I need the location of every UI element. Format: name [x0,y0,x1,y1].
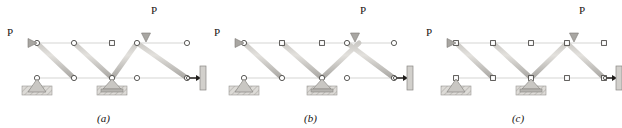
truss-panel-c: P P (c) [414,0,622,128]
truss-panel-a: P P (a) [0,0,207,128]
support-pin [235,79,253,92]
member-diagonal-1 [244,43,282,78]
load-label-vertical: P [360,4,366,16]
panel-caption-b: (b) [207,112,414,124]
joint-bottom-4 [134,75,139,80]
joint-top-4 [134,40,139,45]
joint-bottom-2 [279,75,284,80]
panel-caption-c: (c) [414,112,622,124]
member-diagonal-2 [282,43,322,78]
member-diagonal-4 [567,43,604,78]
joint-top-3 [529,41,534,46]
joint-top-3 [110,41,115,46]
support-roller [520,79,542,92]
load-arrow-vertical [570,14,579,42]
support-roller [101,79,123,92]
joint-top-3 [320,41,325,46]
load-arrow-horizontal [215,39,244,48]
joint-top-2 [280,41,285,46]
joint-top-5 [184,40,189,45]
joint-bottom-4 [344,75,349,80]
load-arrow-horizontal [8,39,37,48]
member-diagonal-4 [137,43,187,78]
member-diagonal-1 [37,43,74,78]
load-label-horizontal: P [426,26,432,38]
joint-top-2 [71,40,76,45]
load-label-vertical: P [151,4,157,16]
truss-a-drawing: P P [0,0,207,128]
joint-top-4 [344,40,349,45]
load-arrow-vertical [142,14,151,42]
member-diagonal-4 [347,43,394,78]
truss-b-drawing: P P [207,0,414,128]
support-pin [28,79,46,92]
member-diagonal-2 [493,43,531,78]
support-roller [311,79,333,92]
joint-top-4 [565,41,570,46]
member-diagonal-3 [112,43,137,78]
load-label-vertical: P [579,4,585,16]
joint-top-2 [491,41,496,46]
truss-figure: P P (a) [0,0,622,128]
member-diagonal-2 [74,43,112,78]
load-arrow-horizontal [427,39,456,48]
load-label-horizontal: P [7,26,13,38]
joint-top-5 [602,41,607,46]
load-label-horizontal: P [214,26,220,38]
support-pin [447,79,465,92]
joint-bottom-2 [491,76,496,81]
load-arrow-vertical [351,14,360,42]
member-diagonal-1 [456,43,493,78]
joint-top-5 [391,40,396,45]
truss-panel-b: P P (b) [207,0,414,128]
joint-bottom-2 [71,75,76,80]
member-diagonal-3 [531,43,567,78]
truss-c-drawing: P P [414,0,622,128]
panel-caption-a: (a) [0,112,207,124]
joint-bottom-4 [565,76,570,81]
